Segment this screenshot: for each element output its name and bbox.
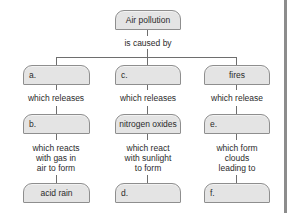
node-a-blank: a. — [23, 65, 90, 85]
connector-branch-middle — [147, 57, 148, 65]
connector-to-f — [236, 175, 237, 183]
node-acid-rain: acid rain — [23, 183, 90, 203]
node-nitrogen-oxides-label: nitrogen oxides — [119, 119, 177, 129]
connector-root-down — [147, 30, 148, 36]
connector-to-acid-rain — [56, 175, 57, 183]
link-label-col2-line1: which react — [127, 143, 170, 153]
node-nitrogen-oxides: nitrogen oxides — [115, 114, 181, 134]
page-edge-divider — [284, 0, 287, 213]
node-a-label: a. — [29, 70, 36, 80]
link-label-col2-line2: with sunlight — [125, 153, 172, 163]
connector-to-e — [236, 106, 237, 114]
link-label-col2-line3: to form — [135, 163, 161, 173]
connector-branch-left — [56, 57, 57, 65]
connector-a-down — [56, 85, 57, 90]
connector-fires-down — [236, 85, 237, 90]
node-f-label: f. — [210, 188, 215, 198]
connector-to-nitrogen-oxides — [147, 106, 148, 114]
node-d-label: d. — [121, 188, 128, 198]
connector-branch-right — [236, 57, 237, 65]
link-label-col1-which-releases: which releases — [28, 93, 84, 103]
connector-b-down — [56, 134, 57, 140]
link-label-col3-line1: which form — [216, 143, 257, 153]
connector-to-b — [56, 106, 57, 114]
connector-c-down — [147, 85, 148, 90]
node-d-blank: d. — [115, 183, 181, 203]
link-label-is-caused-by: is caused by — [124, 38, 171, 48]
node-e-blank: e. — [204, 114, 270, 134]
link-label-col3-which-release: which release — [211, 93, 263, 103]
node-fires-label: fires — [229, 70, 245, 80]
node-e-label: e. — [210, 119, 217, 129]
connector-e-down — [236, 134, 237, 140]
node-fires: fires — [204, 65, 270, 85]
node-c-blank: c. — [115, 65, 181, 85]
link-label-col1-line1: which reacts — [32, 143, 79, 153]
link-label-col3-line3: leading to — [219, 163, 256, 173]
root-node-label: Air pollution — [126, 15, 170, 25]
root-node-air-pollution: Air pollution — [115, 10, 181, 30]
connector-nitrogen-oxides-down — [147, 134, 148, 140]
concept-map: Air pollution is caused by a. which rele… — [0, 0, 289, 213]
link-label-col2-which-releases: which releases — [120, 93, 176, 103]
connector-to-d — [147, 175, 148, 183]
node-b-blank: b. — [23, 114, 90, 134]
node-acid-rain-label: acid rain — [40, 188, 72, 198]
node-c-label: c. — [121, 70, 128, 80]
link-label-col3-line2: clouds — [225, 153, 250, 163]
node-b-label: b. — [29, 119, 36, 129]
link-label-col1-line2: with gas in — [36, 153, 76, 163]
link-label-col1-line3: air to form — [37, 163, 75, 173]
node-f-blank: f. — [204, 183, 270, 203]
